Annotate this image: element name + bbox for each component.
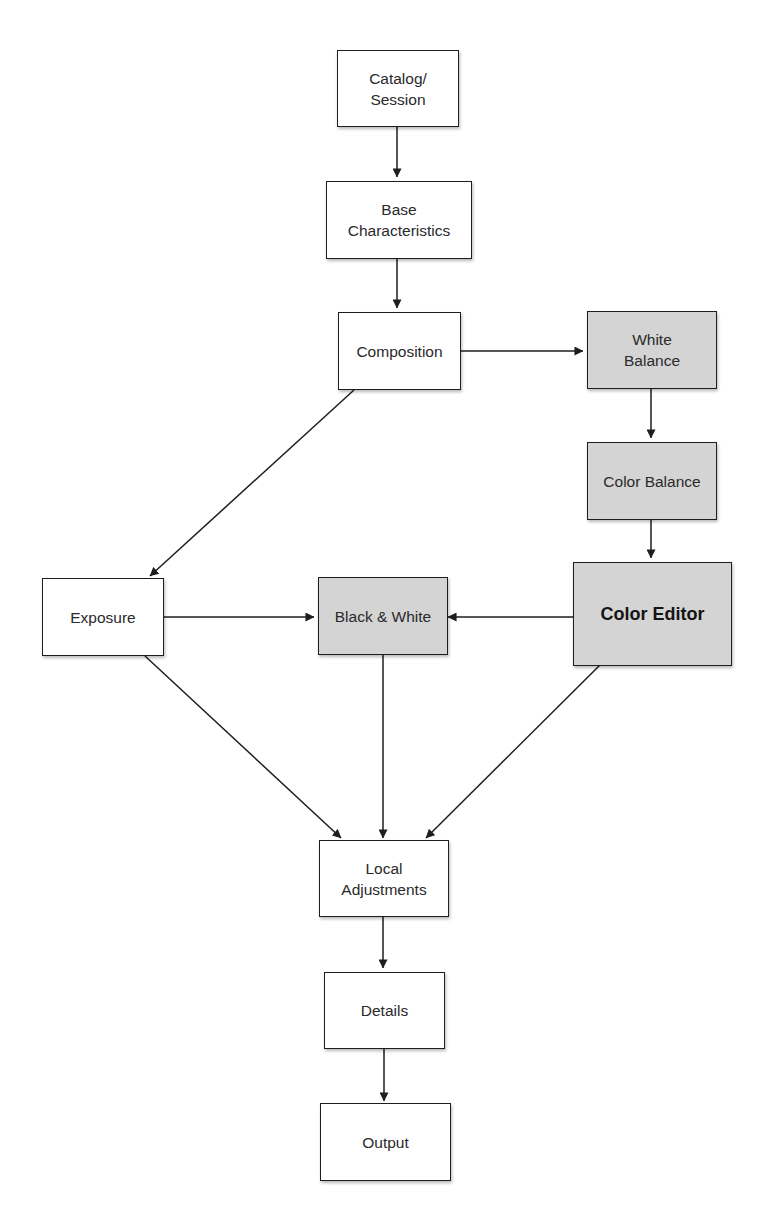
- node-local-adjustments[interactable]: Local Adjustments: [319, 840, 449, 917]
- node-label: Black & White: [335, 606, 431, 627]
- edge-exposure-to-local-adjustments: [145, 656, 341, 838]
- edge-color-editor-to-local-adjustments: [426, 665, 600, 838]
- node-details[interactable]: Details: [324, 972, 445, 1049]
- node-label: Catalog/ Session: [369, 68, 427, 110]
- node-composition[interactable]: Composition: [338, 312, 461, 390]
- edge-composition-to-exposure: [150, 390, 354, 576]
- workflow-diagram: Catalog/ Session Base Characteristics Co…: [0, 0, 781, 1229]
- node-label: Color Editor: [601, 604, 705, 625]
- node-color-editor[interactable]: Color Editor: [573, 562, 732, 666]
- node-label: Details: [361, 1000, 408, 1021]
- node-label: Output: [362, 1132, 409, 1153]
- node-label: Exposure: [70, 607, 135, 628]
- node-exposure[interactable]: Exposure: [42, 578, 164, 656]
- node-catalog-session[interactable]: Catalog/ Session: [337, 50, 459, 127]
- node-label: Color Balance: [603, 471, 700, 492]
- node-base-characteristics[interactable]: Base Characteristics: [326, 181, 472, 259]
- node-white-balance[interactable]: White Balance: [587, 311, 717, 389]
- node-label: Composition: [356, 341, 442, 362]
- node-label: Local Adjustments: [341, 858, 426, 900]
- node-label: Base Characteristics: [348, 199, 451, 241]
- node-black-white[interactable]: Black & White: [318, 577, 448, 655]
- node-color-balance[interactable]: Color Balance: [587, 442, 717, 520]
- node-label: White Balance: [624, 329, 680, 371]
- node-output[interactable]: Output: [320, 1103, 451, 1181]
